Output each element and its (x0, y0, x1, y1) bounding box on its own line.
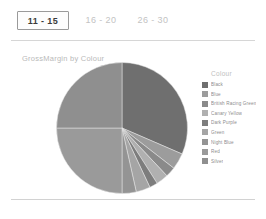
tab-bar: 11 - 15 16 - 20 26 - 30 (0, 0, 266, 40)
legend-item[interactable]: Silver (202, 157, 264, 166)
legend-swatch-icon (202, 101, 208, 107)
pie-chart-svg (56, 62, 188, 194)
pie-chart[interactable] (56, 62, 188, 194)
legend-item-label: Black (211, 82, 223, 87)
legend-item-label: Blue (211, 92, 221, 97)
legend-item[interactable]: Red (202, 147, 264, 156)
tab-16-20[interactable]: 16 - 20 (78, 11, 124, 30)
legend-item-label: Night Blue (211, 140, 234, 145)
legend-item-label: Dark Purple (211, 120, 237, 125)
legend-item[interactable]: Green (202, 128, 264, 137)
legend-swatch-icon (202, 139, 208, 145)
tab-26-30-label: 26 - 30 (138, 15, 169, 25)
legend-swatch-icon (202, 110, 208, 116)
legend-swatch-icon (202, 149, 208, 155)
legend-item[interactable]: Blue (202, 90, 264, 99)
tab-11-15-label: 11 - 15 (28, 16, 58, 26)
pie-slice[interactable] (57, 128, 123, 194)
chart-panel: GrossMargin by Colour Colour BlackBlueBr… (0, 44, 266, 196)
legend-swatch-icon (202, 158, 208, 164)
legend-item-list: BlackBlueBritish Racing GreenCanary Yell… (202, 80, 264, 166)
legend-item[interactable]: British Racing Green (202, 99, 264, 108)
tab-11-15[interactable]: 11 - 15 (17, 11, 69, 30)
chart-legend: Colour BlackBlueBritish Racing GreenCana… (202, 70, 264, 166)
legend-item-label: Canary Yellow (211, 111, 242, 116)
pie-slice-group (57, 63, 188, 194)
legend-item-label: Red (211, 149, 220, 154)
legend-item-label: Green (211, 130, 225, 135)
legend-item[interactable]: Black (202, 80, 264, 89)
pie-slice[interactable] (57, 63, 123, 129)
legend-item-label: British Racing Green (211, 101, 256, 106)
legend-title: Colour (211, 70, 264, 77)
legend-swatch-icon (202, 82, 208, 88)
legend-swatch-icon (202, 129, 208, 135)
footer-divider (11, 199, 255, 200)
legend-item[interactable]: Dark Purple (202, 118, 264, 127)
legend-item[interactable]: Canary Yellow (202, 109, 264, 118)
legend-item[interactable]: Night Blue (202, 138, 264, 147)
legend-swatch-icon (202, 120, 208, 126)
legend-swatch-icon (202, 91, 208, 97)
tab-26-30[interactable]: 26 - 30 (130, 11, 176, 30)
legend-item-label: Silver (211, 159, 223, 164)
tab-16-20-label: 16 - 20 (86, 15, 117, 25)
tab-bar-divider (11, 40, 255, 41)
